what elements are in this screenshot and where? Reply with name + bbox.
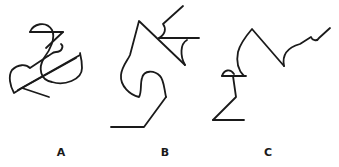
figure-a-drawing — [10, 24, 82, 97]
figure-label-a: A — [51, 146, 71, 159]
figure-b-drawing — [111, 6, 199, 127]
figure-c-drawing — [213, 28, 330, 120]
figure-label-b: B — [155, 146, 175, 159]
figure-label-c: C — [258, 146, 278, 159]
figures-canvas — [0, 0, 339, 167]
